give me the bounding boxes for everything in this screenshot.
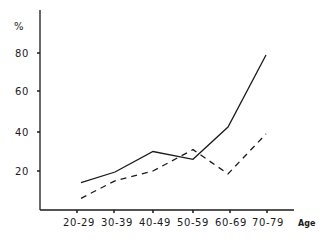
x-tick-label-30-39: 30-39 [101, 217, 133, 228]
series-dashed-line [81, 134, 266, 198]
y-tick-label-20: 20 [15, 166, 29, 177]
y-tick-label-80: 80 [15, 48, 29, 59]
x-axis-label: Age [298, 219, 316, 228]
line-chart: % Age 80 60 40 20 20-29 30-39 40-49 50-5… [0, 0, 324, 242]
x-ticks: 20-29 30-39 40-49 50-59 60-69 70-79 [63, 210, 284, 228]
y-ticks: 80 60 40 20 [15, 48, 40, 177]
x-tick-label-60-69: 60-69 [215, 217, 247, 228]
x-tick-label-50-59: 50-59 [177, 217, 209, 228]
y-tick-label-60: 60 [15, 86, 29, 97]
y-axis-label: % [14, 21, 24, 32]
y-tick-label-40: 40 [15, 127, 29, 138]
x-tick-label-70-79: 70-79 [252, 217, 284, 228]
x-tick-label-40-49: 40-49 [139, 217, 171, 228]
x-tick-label-20-29: 20-29 [63, 217, 95, 228]
